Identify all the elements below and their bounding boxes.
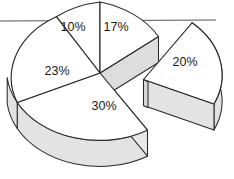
slice-20-apex-side-wall xyxy=(144,80,149,108)
slice-label-30: 30% xyxy=(91,99,116,113)
pie-chart-svg: 10% 17% 23% 30% 20% xyxy=(0,0,234,179)
slice-label-17: 17% xyxy=(103,20,128,34)
slice-label-20: 20% xyxy=(172,55,197,69)
slice-label-23: 23% xyxy=(44,64,69,78)
pie-chart-figure: 10% 17% 23% 30% 20% xyxy=(0,0,234,179)
slice-label-10: 10% xyxy=(60,20,85,34)
